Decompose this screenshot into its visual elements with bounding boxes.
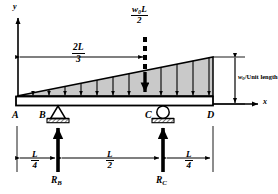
beam-free-body-diagram: y x A B C D w₀L 2 2L 3 w0/Unit length L …: [0, 0, 278, 194]
beam-body: [16, 97, 213, 106]
dim-bc-numerator: L: [106, 150, 114, 160]
reaction-label-b: RB: [51, 176, 62, 186]
reaction-c-subscript: C: [162, 179, 167, 186]
load-intensity-text: /Unit length: [245, 73, 278, 80]
load-intensity-label: w0/Unit length: [238, 74, 278, 82]
reaction-b-subscript: B: [57, 179, 62, 186]
dim-ab-numerator: L: [31, 150, 39, 160]
dimension-label-bc: L 2: [106, 150, 114, 170]
dim-cd-numerator: L: [185, 150, 193, 160]
resultant-load-numerator: w₀L: [131, 5, 148, 15]
dimension-label-2L-over-3: 2L 3: [72, 43, 85, 64]
resultant-load-label: w₀L 2: [131, 5, 148, 25]
dimension-chain-bottom: [17, 126, 213, 172]
dimension-label-cd: L 4: [185, 150, 193, 170]
x-axis-label: x: [263, 98, 267, 106]
load-triangle: [17, 57, 213, 96]
point-label-a: A: [12, 110, 19, 120]
support-b-pin: [47, 106, 69, 123]
point-label-d: D: [207, 110, 214, 120]
diagram-canvas: [0, 0, 278, 194]
reaction-label-c: RC: [156, 176, 167, 186]
dim-bc-denominator: 2: [107, 161, 114, 171]
dim-2L-denominator: 3: [75, 54, 82, 64]
point-label-c: C: [145, 110, 152, 120]
dim-ab-denominator: 4: [32, 161, 39, 171]
dimension-label-ab: L 4: [31, 150, 39, 170]
support-c-roller: [152, 106, 174, 123]
y-axis-label: y: [13, 3, 17, 11]
dim-cd-denominator: 4: [186, 161, 193, 171]
triangular-load-region: [17, 57, 213, 96]
point-label-b: B: [39, 110, 46, 120]
dim-2L-numerator: 2L: [72, 43, 85, 53]
resultant-load-denominator: 2: [136, 16, 143, 26]
